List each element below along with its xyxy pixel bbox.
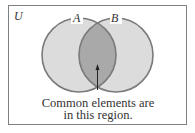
set-a-label: A [72, 11, 81, 25]
annotation-line-2: in this region. [40, 109, 156, 121]
universe-label: U [14, 9, 24, 23]
set-b-label: B [111, 11, 119, 25]
